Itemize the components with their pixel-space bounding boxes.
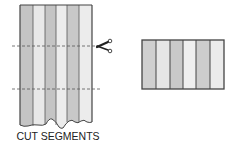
segment-band-6 <box>210 40 224 89</box>
strip-band-5 <box>67 5 79 129</box>
segment-band-4 <box>183 40 196 89</box>
diagram-canvas <box>0 0 238 145</box>
strip-band-4 <box>56 5 67 129</box>
strip-band-6 <box>79 5 92 129</box>
segment-band-3 <box>170 40 183 89</box>
strip-band-3 <box>45 5 56 129</box>
segment-band-2 <box>156 40 170 89</box>
scissors-icon <box>97 39 112 53</box>
cut-segment <box>142 40 224 89</box>
strip-band-2 <box>33 5 45 129</box>
uncut-strip <box>19 5 93 135</box>
strip-band-1 <box>20 5 33 129</box>
segment-band-5 <box>196 40 210 89</box>
diagram-caption: CUT SEGMENTS <box>0 130 116 142</box>
segment-band-1 <box>142 40 156 89</box>
